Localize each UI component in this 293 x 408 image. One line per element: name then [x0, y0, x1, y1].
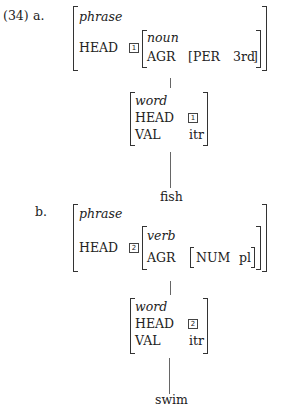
- structure-sharing-tag: 2: [129, 243, 139, 253]
- avm-feature-val: VAL: [135, 335, 161, 348]
- avm-type-word: word: [135, 301, 167, 314]
- avm-type-word: word: [135, 95, 167, 108]
- avm-feature-head: HEAD: [135, 112, 174, 125]
- avm-value-itr: itr: [189, 129, 204, 142]
- avm-feature-head: HEAD: [79, 242, 118, 255]
- avm-value-3rd: 3rd: [233, 51, 255, 64]
- avm-value-itr: itr: [189, 335, 204, 348]
- tree-branch: [169, 358, 170, 394]
- terminal-word: fish: [160, 191, 183, 204]
- agr-close-bracket: ]: [253, 51, 258, 64]
- avm-left-bracket: [73, 204, 78, 272]
- avm-feature-agr: AGR: [147, 252, 175, 265]
- avm-left-bracket: [73, 6, 78, 71]
- structure-sharing-tag: 2: [188, 319, 198, 329]
- avm-feature-val: VAL: [135, 129, 161, 142]
- structure-sharing-tag: 1: [129, 43, 139, 53]
- structure-sharing-tag: 1: [188, 113, 198, 123]
- avm-right-bracket: [262, 6, 267, 71]
- terminal-word: swim: [155, 394, 188, 407]
- avm-type-phrase: phrase: [79, 208, 122, 221]
- avm-feature-head: HEAD: [79, 42, 118, 55]
- agr-open-bracket: [190, 247, 194, 268]
- tree-branch: [170, 152, 171, 188]
- avm-feature-num: NUM: [196, 252, 230, 265]
- avm-feature-head: HEAD: [135, 318, 174, 331]
- avm-feature-per: PER: [193, 51, 220, 64]
- head-type-noun: noun: [147, 32, 179, 45]
- tree-branch: [170, 78, 171, 88]
- example-number: (34): [3, 10, 29, 23]
- avm-right-bracket: [262, 204, 267, 272]
- avm-feature-agr: AGR: [147, 51, 175, 64]
- example-b-label: b.: [35, 206, 47, 219]
- tree-branch: [170, 281, 171, 295]
- avm-type-phrase: phrase: [79, 11, 122, 24]
- inner-right-bracket: [256, 226, 261, 270]
- avm-value-pl: pl: [239, 252, 251, 265]
- example-a-label: a.: [33, 10, 44, 23]
- head-type-verb: verb: [147, 230, 175, 243]
- agr-close-bracket: [251, 247, 255, 268]
